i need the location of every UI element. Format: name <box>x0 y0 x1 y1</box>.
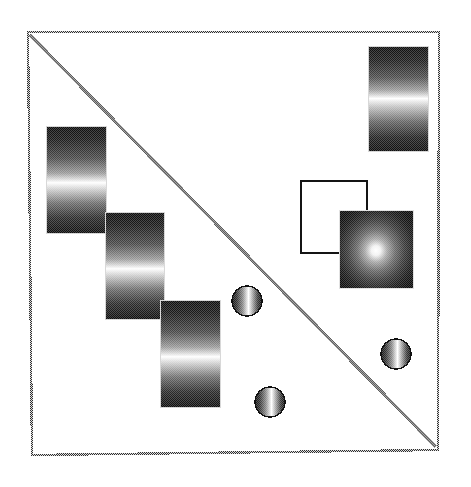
gradient-block-top-right <box>368 46 428 151</box>
figure-canvas <box>0 0 471 487</box>
gradient-composition-figure <box>0 0 471 487</box>
sphere-1 <box>232 286 262 316</box>
radial-gradient-square <box>339 210 413 288</box>
gradient-block-3 <box>160 300 220 407</box>
sphere-3 <box>255 387 285 417</box>
gradient-block-1 <box>46 126 106 233</box>
gradient-block-2 <box>105 212 164 319</box>
sphere-2 <box>381 339 411 369</box>
